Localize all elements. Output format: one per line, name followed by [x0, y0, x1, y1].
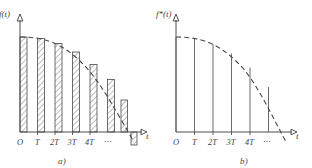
impulse-lines-b	[176, 37, 269, 132]
sample-bars-a	[20, 37, 137, 145]
tick-label-ellipsis-a: ⋯	[104, 137, 113, 146]
y-axis-arrow-b	[173, 14, 179, 21]
tick-label-3t-b: 3T	[226, 138, 237, 147]
sample-bar	[73, 52, 80, 132]
sample-bar	[20, 37, 27, 132]
axes-group-b	[173, 14, 297, 135]
tick-label-4t-a: 4T	[85, 138, 95, 147]
sample-bar	[38, 39, 45, 133]
y-axis-arrow-a	[17, 14, 23, 21]
tick-label-t-b: T	[192, 138, 198, 147]
tick-label-4t-b: 4T	[245, 138, 255, 147]
panel-a-plot: f(t) t O T 2T 3T 4T ⋯	[0, 0, 156, 152]
tick-label-ellipsis-b: ⋯	[263, 137, 272, 146]
panel-a: f(t) t O T 2T 3T 4T ⋯ a)	[0, 0, 156, 168]
figure-root: f(t) t O T 2T 3T 4T ⋯ a)	[0, 0, 312, 168]
tick-label-origin-b: O	[173, 138, 179, 147]
panel-b: f*(t) t O T 2T 3T 4T ⋯ b)	[156, 0, 312, 168]
sample-bar	[90, 65, 97, 133]
panel-b-plot: f*(t) t O T 2T 3T 4T ⋯	[156, 0, 312, 152]
tick-label-t-a: T	[35, 138, 41, 147]
y-axis-label-b: f*(t)	[156, 9, 172, 19]
sample-bar	[121, 100, 128, 132]
tick-label-3t-a: 3T	[67, 138, 78, 147]
panel-a-caption: a)	[0, 156, 140, 166]
x-axis-label-b: t	[296, 131, 299, 141]
sample-bar	[55, 44, 62, 133]
sample-bar	[108, 80, 115, 133]
tick-label-2t-b: 2T	[208, 138, 218, 147]
tick-label-origin-a: O	[17, 138, 23, 147]
tick-label-2t-a: 2T	[50, 138, 60, 147]
y-axis-label-a: f(t)	[0, 9, 10, 19]
panel-b-caption: b)	[166, 156, 312, 166]
x-axis-label-a: t	[146, 131, 149, 141]
envelope-curve-b	[176, 37, 286, 142]
